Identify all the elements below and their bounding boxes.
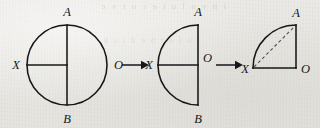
label-A-panel2: A <box>193 5 202 19</box>
panel-half-circle: A B X O <box>144 5 212 126</box>
label-O-panel3: O <box>301 62 310 76</box>
label-B-panel2: B <box>194 112 202 126</box>
panel-quarter-circle: A X O <box>240 6 310 76</box>
label-O-panel2: O <box>203 51 212 65</box>
label-X-panel2: X <box>144 58 154 72</box>
arrow-2 <box>216 61 243 69</box>
figure-page: i n v o l u t e c u r v e f o l d t h e … <box>0 0 320 128</box>
label-A-panel3: A <box>291 6 300 20</box>
dashed-chord-XA <box>254 26 295 67</box>
label-A-panel1: A <box>62 5 71 19</box>
label-X-panel1: X <box>11 58 21 72</box>
label-O-panel1: O <box>114 58 123 72</box>
label-B-panel1: B <box>63 112 71 126</box>
panel-full-circle: A B X O <box>11 5 123 126</box>
label-X-panel3: X <box>240 62 250 76</box>
geometry-figure: A B X O A B X O <box>0 0 320 128</box>
